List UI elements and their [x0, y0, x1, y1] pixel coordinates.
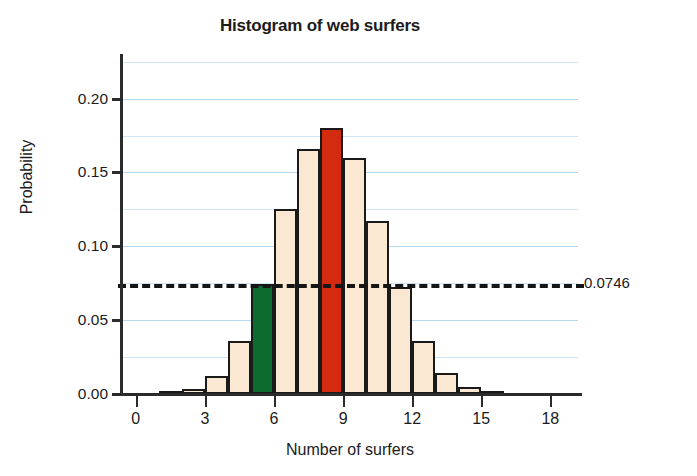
y-axis-labels: 0.000.050.100.150.20	[34, 0, 108, 476]
y-axis-tick	[112, 98, 122, 101]
histogram-figure: Histogram of web surfers Probability 0.0…	[0, 0, 697, 476]
y-axis-spine	[120, 54, 123, 395]
x-axis-tick	[550, 396, 552, 407]
y-axis-tick-label: 0.15	[42, 163, 108, 181]
x-axis-tick	[274, 396, 276, 407]
x-axis-tick	[412, 396, 414, 407]
axis-spines	[122, 58, 578, 394]
reference-line-label: 0.0746	[584, 274, 630, 291]
y-axis-tick-label: 0.10	[42, 237, 108, 255]
x-axis-title: Number of surfers	[122, 441, 578, 459]
y-axis-tick	[112, 393, 122, 396]
y-axis-tick	[112, 319, 122, 322]
x-axis-tick	[481, 396, 483, 407]
x-axis-spine	[120, 393, 582, 396]
x-axis-tick-label: 0	[116, 410, 156, 428]
x-axis-tick-label: 18	[530, 410, 570, 428]
y-axis-tick-label: 0.00	[42, 385, 108, 403]
x-axis-tick	[205, 396, 207, 407]
x-axis-tick	[343, 396, 345, 407]
x-axis-tick-label: 3	[185, 410, 225, 428]
x-axis-tick-label: 12	[392, 410, 432, 428]
x-axis-tick-label: 15	[461, 410, 501, 428]
plot-area	[122, 58, 578, 394]
x-axis-tick-label: 9	[323, 410, 363, 428]
x-axis-tick	[136, 396, 138, 407]
y-axis-tick-label: 0.05	[42, 311, 108, 329]
y-axis-tick	[112, 245, 122, 248]
y-axis-tick	[112, 171, 122, 174]
x-axis-tick-label: 6	[254, 410, 294, 428]
y-axis-tick-label: 0.20	[42, 90, 108, 108]
